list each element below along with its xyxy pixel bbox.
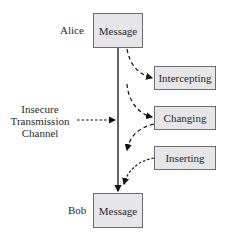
- attack-inserting-label: Inserting: [165, 152, 204, 164]
- channel-label-line-2: Transmission: [8, 115, 72, 127]
- attack-intercepting-box: Intercepting: [154, 66, 216, 90]
- sender-message-label: Message: [99, 25, 138, 37]
- receiver-message-label: Message: [99, 205, 138, 217]
- sender-message-box: Message: [93, 13, 143, 48]
- receiver-message-box: Message: [93, 193, 143, 228]
- sender-name: Alice: [60, 24, 84, 36]
- receiver-name: Bob: [68, 204, 86, 216]
- channel-label-line-1: Insecure: [8, 103, 72, 115]
- attack-intercepting-label: Intercepting: [158, 72, 211, 84]
- attack-inserting-box: Inserting: [154, 146, 216, 170]
- attack-changing-box: Changing: [154, 106, 216, 130]
- attack-changing-label: Changing: [164, 112, 207, 124]
- channel-label-line-3: Channel: [8, 127, 72, 139]
- channel-label: Insecure Transmission Channel: [8, 103, 72, 139]
